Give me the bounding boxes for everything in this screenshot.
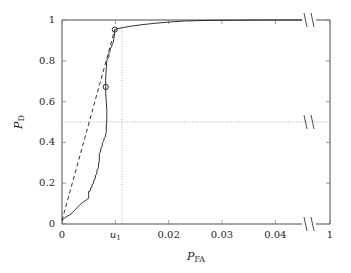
y-tick-label: 0.2 bbox=[0, 178, 55, 188]
y-axis-title-base: P bbox=[12, 121, 25, 128]
guide-lines bbox=[62, 25, 330, 224]
y-tick-label: 0 bbox=[0, 219, 55, 229]
x-tick-label: 0.03 bbox=[211, 230, 233, 240]
operating-point-markers bbox=[103, 27, 117, 90]
x-tick-label: 0.02 bbox=[158, 230, 180, 240]
y-axis-title-sub: D bbox=[17, 115, 26, 121]
plot-frame bbox=[62, 20, 330, 224]
break-bottom-slash-2 bbox=[311, 217, 314, 231]
y-tick-label: 0.4 bbox=[0, 137, 55, 147]
break-bottom-slash-1 bbox=[304, 217, 307, 231]
x-tick-label: 0.04 bbox=[264, 230, 286, 240]
break-mid-slash-2 bbox=[311, 115, 314, 129]
x-tick-label: 0 bbox=[59, 230, 65, 240]
y-tick-label: 0.6 bbox=[0, 97, 55, 107]
data-series-group bbox=[62, 20, 302, 220]
x-axis-title: PFA bbox=[187, 250, 205, 264]
x-tick-label: 1 bbox=[327, 230, 333, 240]
y-tick-label: 0.8 bbox=[0, 56, 55, 66]
break-top-slash-1 bbox=[304, 13, 307, 27]
y-axis-title: PD bbox=[12, 115, 26, 129]
x-tick-label: u1 bbox=[110, 230, 121, 241]
roc-empirical-path bbox=[62, 20, 302, 220]
tick-marks bbox=[62, 20, 330, 224]
y-tick-label: 1 bbox=[0, 15, 55, 25]
roc-chart-figure: 00.20.40.60.81 0u10.020.030.041 PFA PD bbox=[0, 0, 351, 273]
x-axis-title-sub: FA bbox=[194, 255, 205, 264]
break-top-slash-2 bbox=[311, 13, 314, 27]
